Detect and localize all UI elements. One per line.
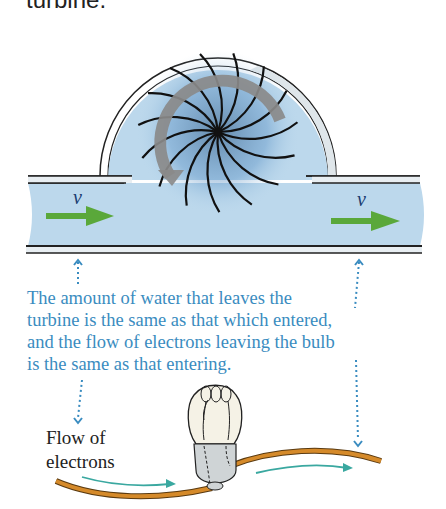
electron-flow-arrow-left-icon (82, 477, 176, 488)
explanation-line: turbine is the same as that which entere… (27, 309, 427, 331)
flow-label-line: electrons (46, 450, 115, 474)
light-bulb-icon (188, 385, 242, 490)
flow-of-electrons-label: Flow of electrons (46, 426, 115, 474)
leader-left-bottom-arrowhead-icon (74, 418, 82, 423)
leader-right-bottom-arrowhead-icon (354, 441, 362, 446)
electron-flow-arrow-right-icon (256, 463, 353, 473)
leader-left-bottom-icon (78, 380, 82, 418)
explanation-line: The amount of water that leaves the (27, 287, 427, 309)
explanation-line: and the flow of electrons leaving the bu… (27, 331, 427, 353)
explanation-line: is the same as that entering. (27, 353, 427, 375)
inlet-velocity-label: v (73, 186, 82, 209)
explanation-text: The amount of water that leaves the turb… (27, 287, 427, 375)
flow-label-line: Flow of (46, 426, 115, 450)
outlet-velocity-label: v (357, 188, 366, 211)
